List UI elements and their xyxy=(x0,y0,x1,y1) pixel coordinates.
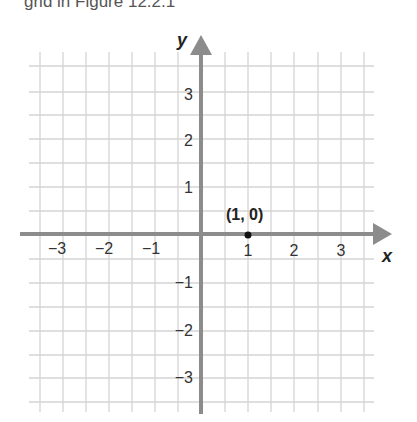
x-tick-label: 1 xyxy=(244,242,253,259)
x-tick-label: −3 xyxy=(48,240,66,257)
y-axis-arrow-icon xyxy=(190,35,212,55)
y-tick-label: −3 xyxy=(175,369,193,386)
x-tick-label: 3 xyxy=(337,242,346,259)
x-tick-label: −1 xyxy=(142,240,160,257)
coordinate-plane: y x −3 −2 −1 1 2 3 3 2 1 −1 −2 −3 (1, 0) xyxy=(0,0,417,422)
x-axis-label: x xyxy=(381,246,393,266)
y-tick-label: 2 xyxy=(184,132,193,149)
point-marker xyxy=(245,232,252,239)
x-axis-arrow-icon xyxy=(373,223,392,245)
x-tick-label: 2 xyxy=(290,242,299,259)
y-axis-label: y xyxy=(176,30,188,50)
y-tick-label: 3 xyxy=(184,86,193,103)
y-tick-label: −1 xyxy=(175,274,193,291)
y-tick-label: −2 xyxy=(175,322,193,339)
point-label: (1, 0) xyxy=(226,206,263,223)
x-tick-label: −2 xyxy=(95,240,113,257)
y-tick-label: 1 xyxy=(184,179,193,196)
